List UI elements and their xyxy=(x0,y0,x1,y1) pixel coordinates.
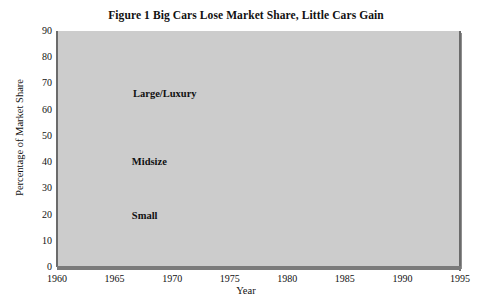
x-tick-label: 1980 xyxy=(267,274,307,284)
y-tick-label: 80 xyxy=(30,52,52,62)
x-tick-label: 1960 xyxy=(37,274,77,284)
plot-background xyxy=(57,31,460,267)
y-tick-label: 50 xyxy=(30,131,52,141)
y-tick-label: 10 xyxy=(30,236,52,246)
axis-line-right xyxy=(459,31,461,271)
series-label-large-luxury: Large/Luxury xyxy=(133,88,197,99)
x-tick-label: 1975 xyxy=(210,274,250,284)
x-tick-label: 1985 xyxy=(325,274,365,284)
axis-line-left xyxy=(56,31,58,267)
axis-line-bottom xyxy=(57,266,461,270)
x-axis-label: Year xyxy=(0,285,492,296)
x-tick-label: 1995 xyxy=(440,274,480,284)
y-tick-label: 0 xyxy=(30,262,52,272)
y-tick-label: 70 xyxy=(30,78,52,88)
plot-area: Large/LuxuryMidsizeSmall xyxy=(57,31,460,267)
x-tick-label: 1965 xyxy=(95,274,135,284)
y-tick-label: 30 xyxy=(30,183,52,193)
y-tick-label: 60 xyxy=(30,105,52,115)
y-axis-label: Percentage of Market Share xyxy=(14,38,25,238)
y-tick-label: 40 xyxy=(30,157,52,167)
y-tick-label: 90 xyxy=(30,26,52,36)
series-label-small: Small xyxy=(132,210,158,221)
x-tick-label: 1970 xyxy=(152,274,192,284)
x-tick-label: 1990 xyxy=(382,274,422,284)
figure-container: Figure 1 Big Cars Lose Market Share, Lit… xyxy=(0,0,492,302)
series-label-midsize: Midsize xyxy=(132,156,167,167)
chart-title: Figure 1 Big Cars Lose Market Share, Lit… xyxy=(0,9,492,21)
y-tick-label: 20 xyxy=(30,210,52,220)
